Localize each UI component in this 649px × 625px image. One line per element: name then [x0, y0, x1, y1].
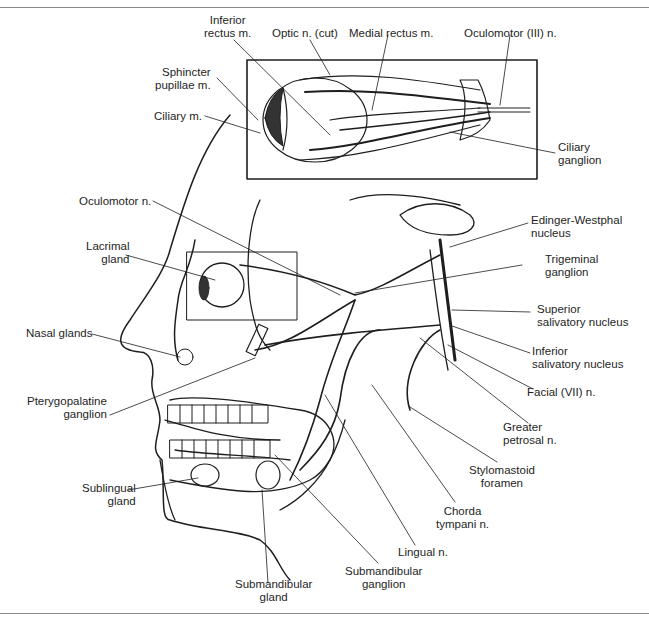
label-ciliary-ganglion: Ciliary ganglion	[558, 141, 601, 167]
label-pterygopalatine-ganglion: Pterygopalatine ganglion	[27, 395, 107, 421]
teeth	[168, 405, 270, 458]
label-facial-VII: Facial (VII) n.	[527, 386, 595, 399]
label-greater-petrosal: Greater petrosal n.	[503, 421, 557, 447]
label-oculomotor-n: Oculomotor n.	[79, 195, 151, 208]
label-stylomastoid-foramen: Stylomastoid foramen	[469, 464, 535, 490]
label-oculomotor-III: Oculomotor (III) n.	[464, 27, 557, 40]
pterygopalatine-ganglion-shape	[246, 324, 268, 355]
eye-inset-drawing	[263, 76, 530, 162]
label-superior-salivatory: Superior salivatory nucleus	[537, 303, 628, 329]
label-sphincter-pupillae: Sphincter pupillae m.	[155, 66, 211, 92]
label-chorda-tympani: Chorda tympani n.	[436, 505, 489, 531]
label-nasal-glands: Nasal glands	[26, 327, 92, 340]
label-edinger-westphal: Edinger-Westphal nucleus	[531, 214, 622, 240]
brainstem	[350, 195, 474, 370]
label-sublingual-gland: Sublingual gland	[82, 482, 136, 508]
skull-and-jaw	[160, 200, 345, 520]
submandibular-gland-shape	[256, 461, 280, 489]
label-optic-nerve-cut: Optic n. (cut)	[272, 27, 338, 40]
label-submandibular-ganglion: Submandibular ganglion	[345, 565, 422, 591]
label-medial-rectus: Medial rectus m.	[349, 27, 433, 40]
label-submandibular-gland: Submandibular gland	[235, 578, 312, 604]
label-lacrimal-gland: Lacrimal gland	[86, 240, 129, 266]
label-ciliary-muscle: Ciliary m.	[154, 110, 202, 123]
label-lingual-n: Lingual n.	[398, 546, 448, 559]
label-trigeminal-ganglion: Trigeminal ganglion	[545, 253, 598, 279]
sublingual-gland-shape	[191, 464, 219, 486]
label-inferior-salivatory: Inferior salivatory nucleus	[532, 345, 623, 371]
label-inferior-rectus: Inferior rectus m.	[204, 14, 251, 40]
